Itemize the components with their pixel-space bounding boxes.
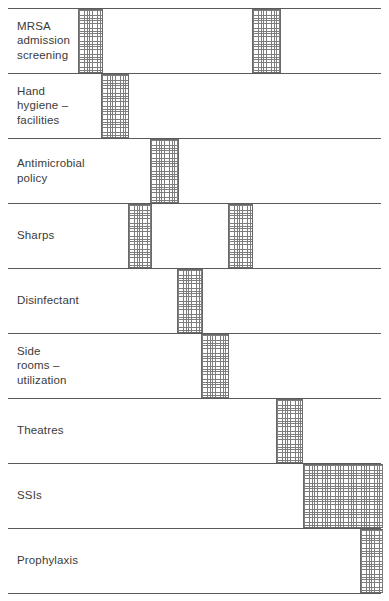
gantt-bar	[201, 334, 229, 398]
row-label: MRSA admission screening	[17, 19, 70, 63]
gantt-bar	[303, 464, 383, 528]
grid-line	[8, 398, 381, 399]
grid-line	[8, 138, 381, 139]
grid-line	[8, 333, 381, 334]
gantt-bar	[360, 529, 383, 593]
gantt-bar	[150, 139, 179, 203]
row-label: Hand hygiene – facilities	[17, 84, 68, 128]
gantt-bar	[128, 204, 152, 268]
grid-line	[8, 593, 381, 594]
grid-line	[8, 73, 381, 74]
gantt-bar	[101, 74, 129, 138]
gantt-bar	[177, 269, 203, 333]
gantt-bar	[252, 9, 281, 73]
row-label: Antimicrobial policy	[17, 156, 85, 185]
gantt-bar	[276, 399, 303, 463]
row-label: Theatres	[17, 423, 64, 438]
gantt-bar	[78, 9, 103, 73]
grid-line	[8, 8, 381, 9]
row-label: Disinfectant	[17, 293, 79, 308]
gantt-chart: MRSA admission screeningHand hygiene – f…	[0, 0, 389, 601]
gantt-bar	[228, 204, 253, 268]
row-label: SSIs	[17, 488, 42, 503]
row-label: Sharps	[17, 228, 54, 243]
grid-line	[8, 203, 381, 204]
grid-line	[8, 528, 381, 529]
row-label: Prophylaxis	[17, 553, 78, 568]
row-label: Side rooms – utilization	[17, 344, 67, 388]
